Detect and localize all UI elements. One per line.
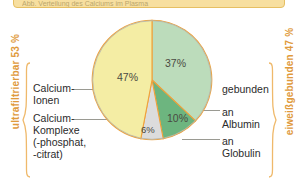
figure-caption-banner: Abb. Verteilung des Calciums im Plasma xyxy=(13,0,285,8)
pie-label-37: 37% xyxy=(165,57,186,69)
pie-chart: 37% 10% 6% 47% xyxy=(91,19,213,141)
pie-chart-svg xyxy=(91,19,213,141)
legend-label-an-albumin: an Albumin xyxy=(222,106,260,130)
left-group-label: ultrafiltrierbar 53 % xyxy=(10,30,21,134)
right-brace xyxy=(268,62,277,178)
pie-label-6: 6% xyxy=(141,124,155,135)
left-brace xyxy=(22,62,31,178)
pie-label-10: 10% xyxy=(167,112,188,124)
legend-label-gebunden: gebunden xyxy=(222,83,269,95)
legend-label-an-globulin: an Globulin xyxy=(222,135,261,159)
pie-label-47: 47% xyxy=(117,71,138,83)
legend-label-calcium-ionen: Calcium- Ionen xyxy=(33,82,74,106)
legend-label-calcium-komplexe: Calcium- Komplexe (-phosphat, -citrat) xyxy=(33,112,86,160)
figure-caption-text: Abb. Verteilung des Calciums im Plasma xyxy=(22,0,148,7)
right-group-label: eiweißgebunden 47 % xyxy=(284,24,295,140)
